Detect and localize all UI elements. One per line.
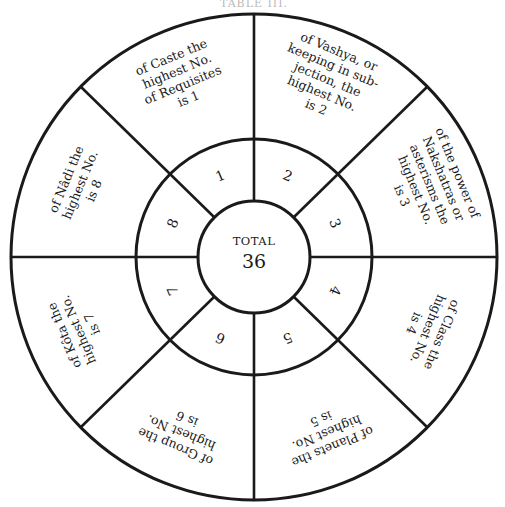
segment-5-text: of Planets the highest No. is 5 bbox=[278, 396, 376, 471]
segment-number-4: 4 bbox=[326, 283, 344, 297]
segment-6-text: of Group the highest No. is 6 bbox=[135, 397, 226, 469]
segment-7-text: of Kôta the highest No. is 7 bbox=[43, 288, 113, 373]
segment-number-5: 5 bbox=[280, 329, 294, 347]
compatibility-wheel-diagram: TABLE III. TOTAL 36 1 2 3 4 5 6 7 8 of C… bbox=[0, 0, 505, 507]
segment-number-6: 6 bbox=[213, 329, 227, 347]
segment-number-3: 3 bbox=[326, 216, 344, 230]
table-heading: TABLE III. bbox=[220, 0, 288, 10]
spoke-sw bbox=[80, 297, 214, 428]
segment-8-text: of Nâdi the highest No. is 8 bbox=[45, 142, 115, 227]
segment-1-text: of Caste the highest No. of Requisites i… bbox=[130, 34, 229, 121]
total-label: TOTAL bbox=[233, 234, 276, 248]
spoke-se bbox=[294, 297, 428, 428]
segment-4-text: of Class the highest No. is 4 bbox=[393, 286, 463, 372]
segment-number-8: 8 bbox=[164, 216, 182, 230]
segment-number-2: 2 bbox=[280, 167, 294, 185]
total-value: 36 bbox=[242, 250, 266, 272]
segment-number-7: 7 bbox=[164, 283, 182, 297]
segment-number-1: 1 bbox=[213, 167, 227, 185]
